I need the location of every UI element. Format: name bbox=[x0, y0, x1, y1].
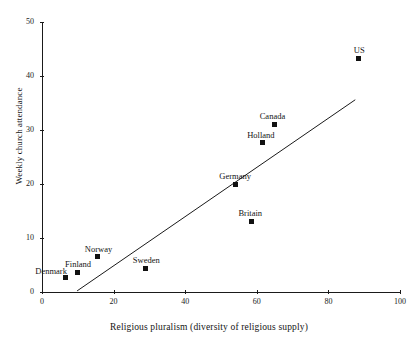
data-point-label: Canada bbox=[260, 112, 286, 121]
y-axis-title: Weekly church attendance bbox=[14, 61, 24, 211]
x-axis-tick bbox=[400, 290, 401, 294]
y-axis-tick bbox=[40, 184, 44, 185]
data-point-marker bbox=[272, 122, 277, 127]
data-point-marker bbox=[143, 266, 148, 271]
data-point-marker bbox=[75, 270, 80, 275]
data-point-label: Sweden bbox=[133, 256, 160, 265]
data-point-label: Norway bbox=[85, 245, 112, 254]
y-axis-tick bbox=[40, 238, 44, 239]
data-point-label: US bbox=[354, 46, 365, 55]
regression-line bbox=[77, 100, 355, 291]
y-axis-line bbox=[42, 22, 43, 293]
data-point-marker bbox=[233, 182, 238, 187]
data-point-marker bbox=[63, 275, 68, 280]
y-axis-tick-label: 50 bbox=[16, 18, 34, 26]
data-point-marker bbox=[260, 140, 265, 145]
data-point-label: Germany bbox=[219, 172, 251, 181]
data-point-marker bbox=[356, 56, 361, 61]
data-point-label: Finland bbox=[65, 260, 91, 269]
x-axis-title: Religious pluralism (diversity of religi… bbox=[0, 322, 418, 332]
data-point-label: Holland bbox=[247, 131, 274, 140]
y-axis-tick-label: 0 bbox=[16, 288, 34, 296]
x-axis-tick-label: 40 bbox=[175, 298, 195, 306]
y-axis-tick bbox=[40, 22, 44, 23]
x-axis-tick bbox=[257, 290, 258, 294]
x-axis-line bbox=[42, 292, 401, 293]
x-axis-tick-label: 80 bbox=[318, 298, 338, 306]
y-axis-tick-label: 10 bbox=[16, 234, 34, 242]
x-axis-tick-label: 100 bbox=[390, 298, 410, 306]
scatter-plot-figure: 01020304050020406080100 DenmarkFinlandNo… bbox=[0, 0, 418, 347]
y-axis-tick bbox=[40, 76, 44, 77]
data-point-label: Denmark bbox=[35, 267, 67, 276]
x-axis-tick bbox=[42, 290, 43, 294]
x-axis-tick-label: 60 bbox=[247, 298, 267, 306]
x-axis-tick bbox=[185, 290, 186, 294]
data-point-marker bbox=[249, 219, 254, 224]
x-axis-tick bbox=[114, 290, 115, 294]
data-point-marker bbox=[95, 254, 100, 259]
y-axis-tick bbox=[40, 130, 44, 131]
x-axis-tick-label: 20 bbox=[104, 298, 124, 306]
x-axis-tick bbox=[328, 290, 329, 294]
data-point-label: Britain bbox=[238, 209, 262, 218]
x-axis-tick-label: 0 bbox=[32, 298, 52, 306]
